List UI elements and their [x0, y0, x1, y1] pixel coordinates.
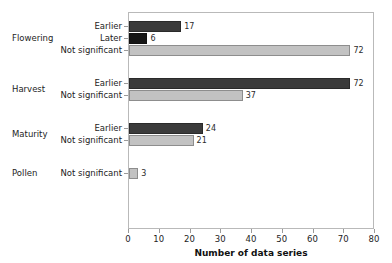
x-tick-mark — [159, 229, 160, 233]
group-label-harvest: Harvest — [12, 84, 45, 95]
bar-harvest-not-significant — [129, 90, 243, 101]
x-tick-mark — [128, 229, 129, 233]
bar-chart-figure: 17672723724213 EarlierLaterNot significa… — [0, 0, 392, 263]
bar-harvest-earlier — [129, 78, 350, 89]
x-tick-label: 10 — [144, 234, 174, 245]
group-label-pollen: Pollen — [12, 168, 37, 179]
x-tick-mark — [343, 229, 344, 233]
y-tick-mark — [124, 83, 128, 84]
x-tick-label: 70 — [328, 234, 358, 245]
bar-flowering-earlier — [129, 21, 181, 32]
bar-flowering-not-significant — [129, 45, 350, 56]
y-tick-mark — [124, 128, 128, 129]
x-tick-mark — [190, 229, 191, 233]
bar-value-label: 6 — [150, 33, 155, 44]
x-tick-mark — [313, 229, 314, 233]
y-tick-mark — [124, 50, 128, 51]
bar-value-label: 72 — [353, 45, 363, 56]
x-tick-label: 80 — [359, 234, 389, 245]
x-tick-mark — [374, 229, 375, 233]
x-tick-label: 20 — [175, 234, 205, 245]
bar-maturity-earlier — [129, 123, 203, 134]
x-tick-label: 30 — [205, 234, 235, 245]
bar-value-label: 72 — [353, 78, 363, 89]
y-tick-mark — [124, 38, 128, 39]
y-tick-label: Not significant — [0, 45, 122, 56]
bar-value-label: 3 — [141, 168, 146, 179]
x-tick-mark — [251, 229, 252, 233]
y-tick-mark — [124, 140, 128, 141]
x-tick-label: 60 — [298, 234, 328, 245]
bar-value-label: 37 — [246, 90, 256, 101]
bar-value-label: 21 — [197, 135, 207, 146]
group-label-maturity: Maturity — [12, 129, 47, 140]
bar-pollen-not-significant — [129, 168, 138, 179]
y-tick-mark — [124, 173, 128, 174]
plot-area — [128, 12, 374, 229]
group-label-flowering: Flowering — [12, 33, 53, 44]
x-tick-label: 50 — [267, 234, 297, 245]
x-tick-label: 40 — [236, 234, 266, 245]
y-tick-mark — [124, 95, 128, 96]
y-tick-mark — [124, 26, 128, 27]
bar-flowering-later — [129, 33, 147, 44]
bar-value-label: 24 — [206, 123, 216, 134]
bar-value-label: 17 — [184, 21, 194, 32]
bar-maturity-not-significant — [129, 135, 194, 146]
x-tick-mark — [282, 229, 283, 233]
x-axis-title: Number of data series — [128, 248, 374, 259]
y-tick-label: Earlier — [0, 21, 122, 32]
x-tick-label: 0 — [113, 234, 143, 245]
x-tick-mark — [220, 229, 221, 233]
